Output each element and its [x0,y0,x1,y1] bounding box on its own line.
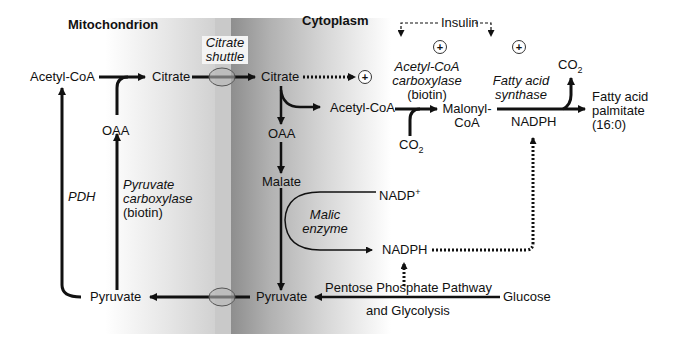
co2-release-arrow [563,78,571,109]
acetyl-coa-carboxylase-label: Acetyl-CoA carboxylase (biotin) [387,60,467,102]
citrate-shuttle-label: Citrate shuttle [202,36,248,64]
malic-nadph: NADPH [382,243,428,257]
mito-citrate: Citrate [152,70,190,84]
plus-icon: + [512,40,526,54]
cyto-acetyl-coa: Acetyl-CoA [330,101,395,115]
insulin-acc-arrow [401,23,438,36]
mito-oaa: OAA [102,124,129,138]
cyto-malate: Malate [262,175,301,189]
mito-pyruvate: Pyruvate [90,290,141,304]
glucose: Glucose [503,290,551,304]
cyto-pyruvate: Pyruvate [256,290,307,304]
citrate-transporter [209,68,235,86]
cyto-oaa: OAA [268,127,295,141]
fatty-acid-synthase-label: Fatty acid synthase [490,74,552,102]
plus-icon: + [358,70,372,84]
pdh-enzyme-label: PDH [68,190,95,204]
citrate-shuttle-diagram: Mitochondrion Cytoplasm Citrate shuttle … [0,0,685,345]
cyto-citrate: Citrate [261,70,299,84]
insulin-label: Insulin [441,16,479,30]
malic-enzyme-label: Malic enzyme [300,208,350,236]
cytoplasm-label: Cytoplasm [302,14,368,28]
citrate-to-acetyl-coa-arrow [281,90,320,107]
glycolysis-label: and Glycolysis [366,304,450,318]
malonyl-coa: Malonyl- CoA [442,102,492,130]
fas-nadph: NADPH [511,115,557,129]
fatty-acid-product: Fatty acid palmitate (16:0) [592,90,648,132]
mito-acetyl-coa: Acetyl-CoA [30,70,95,84]
mitochondrion-label: Mitochondrion [68,18,158,32]
plus-icon: + [433,40,447,54]
oaa-join-curve [117,77,128,115]
nadp-plus: NADP+ [379,185,420,203]
co2-join-curve [410,109,420,136]
nadph-supply-arrow [432,138,533,250]
co2-input: CO2 [399,138,424,157]
co2-output: CO2 [558,58,583,77]
ppp-label: Pentose Phosphate Pathway [325,281,492,295]
pyruvate-carboxylase-label: Pyruvate carboxylase (biotin) [123,178,192,220]
pyruvate-transporter [209,288,235,306]
